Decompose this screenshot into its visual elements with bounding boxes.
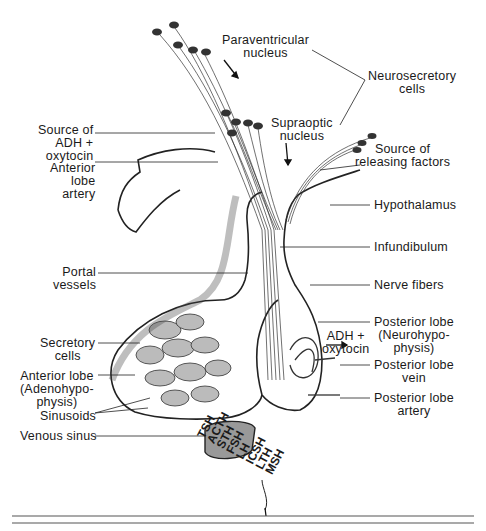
label-posterior-lobe-vein: Posterior lobe vein <box>374 359 454 385</box>
label-sinusoids: Sinusoids <box>40 410 96 423</box>
label-posterior-lobe-artery: Posterior lobe artery <box>374 392 454 418</box>
label-adh-oxytocin-release: ADH + oxytocin <box>322 330 369 356</box>
label-anterior-lobe-artery: Anterior lobe artery <box>50 162 95 201</box>
label-venous-sinus: Venous sinus <box>20 430 97 443</box>
label-source-releasing-factors: Source of releasing factors <box>355 143 450 169</box>
label-paraventricular-nucleus: Paraventricular nucleus <box>222 34 309 60</box>
label-neurosecretory-cells: Neurosecretory cells <box>368 70 456 96</box>
pituitary-diagram: Paraventricular nucleus Neurosecretory c… <box>0 0 486 531</box>
label-supraoptic-nucleus: Supraoptic nucleus <box>271 117 333 143</box>
label-anterior-lobe: Anterior lobe (Adenohypo- physis) <box>20 370 94 409</box>
label-source-adh-oxytocin: Source of ADH + oxytocin <box>38 124 93 163</box>
label-posterior-lobe: Posterior lobe (Neurohypo- physis) <box>374 316 454 355</box>
label-secretory-cells: Secretory cells <box>40 337 95 363</box>
label-portal-vessels: Portal vessels <box>53 266 96 292</box>
label-hypothalamus: Hypothalamus <box>374 199 456 212</box>
label-nerve-fibers: Nerve fibers <box>374 279 444 292</box>
label-infundibulum: Infundibulum <box>374 241 448 254</box>
